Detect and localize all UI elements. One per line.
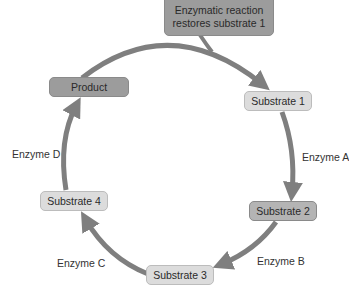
label-enzyme-d: Enzyme D — [12, 148, 60, 160]
callout-line2: restores substrate 1 — [173, 17, 266, 30]
callout-line1: Enzymatic reaction — [173, 4, 266, 17]
label-enzyme-a: Enzyme A — [302, 151, 349, 163]
arrow-substrate1-to-substrate2 — [282, 112, 293, 192]
node-substrate-2: Substrate 2 — [249, 201, 317, 221]
node-substrate-3: Substrate 3 — [146, 265, 214, 285]
arrow-substrate4-to-product — [64, 106, 76, 190]
node-substrate-1: Substrate 1 — [244, 91, 312, 111]
label-enzyme-c: Enzyme C — [57, 257, 105, 269]
node-product: Product — [49, 77, 129, 97]
node-substrate-4: Substrate 4 — [40, 191, 108, 211]
callout-restores-substrate: Enzymatic reaction restores substrate 1 — [164, 0, 274, 36]
label-enzyme-b: Enzyme B — [257, 255, 305, 267]
